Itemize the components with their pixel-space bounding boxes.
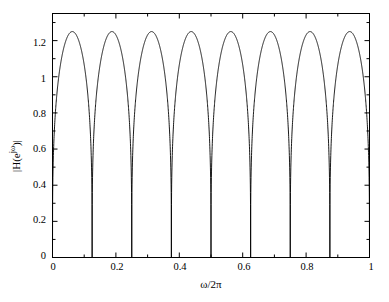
x-axis-label: ω/2π xyxy=(171,278,251,290)
ytick-label-0.8: 0.8 xyxy=(22,109,46,120)
y-axis-label-prefix: |H(e xyxy=(10,153,22,172)
x-axis-label-text: ω/2π xyxy=(200,278,221,290)
plot-svg xyxy=(0,0,389,302)
xtick-label-0.2: 0.2 xyxy=(105,262,129,273)
y-axis-label: |H(ejω)| xyxy=(10,140,22,172)
ytick-label-0.4: 0.4 xyxy=(22,180,46,191)
xtick-label-0.4: 0.4 xyxy=(168,262,192,273)
y-axis-label-exponent: jω xyxy=(8,146,17,153)
ytick-label-0.6: 0.6 xyxy=(22,144,46,155)
xtick-label-0: 0 xyxy=(41,262,65,273)
figure-canvas: 0 0.2 0.4 0.6 0.8 1 1.2 0 0.2 0.4 0.6 0.… xyxy=(0,0,389,302)
xtick-label-0.8: 0.8 xyxy=(295,262,319,273)
xtick-label-1: 1 xyxy=(359,262,383,273)
y-axis-label-suffix: )| xyxy=(10,140,22,146)
ytick-label-0: 0 xyxy=(22,251,46,262)
xtick-label-0.6: 0.6 xyxy=(232,262,256,273)
ytick-label-0.2: 0.2 xyxy=(22,215,46,226)
ytick-label-1.2: 1.2 xyxy=(22,38,46,49)
ytick-label-1: 1 xyxy=(22,74,46,85)
